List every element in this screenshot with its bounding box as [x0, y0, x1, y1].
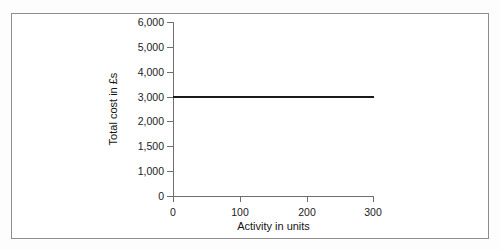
y-tick-label-6000-wrap: 6,000 — [104, 22, 164, 23]
y-tick-label-5000-wrap: 5,000 — [104, 47, 164, 48]
y-tick-label-6000: 6,000 — [104, 17, 164, 28]
x-tick-label-100-wrap: 100 — [210, 202, 270, 220]
y-tick-1500 — [167, 146, 173, 147]
plot-area: 6,000 5,000 4,000 3,000 2,000 1,500 1,00… — [0, 0, 500, 250]
x-tick-label-200-wrap: 200 — [277, 202, 337, 220]
x-tick-label-0: 0 — [170, 206, 176, 218]
series-line-total-cost — [173, 96, 374, 98]
y-tick-4000 — [167, 72, 173, 73]
x-tick-label-300: 300 — [364, 206, 382, 218]
y-tick-5000 — [167, 47, 173, 48]
x-tick-label-0-wrap: 0 — [143, 202, 203, 220]
y-tick-2000 — [167, 121, 173, 122]
y-tick-6000 — [167, 22, 173, 23]
y-tick-label-0-wrap: 0 — [104, 196, 164, 197]
y-axis-line — [173, 22, 174, 197]
figure-canvas: 6,000 5,000 4,000 3,000 2,000 1,500 1,00… — [0, 0, 500, 250]
y-axis-title: Total cost in £s — [107, 73, 119, 146]
x-tick-label-200: 200 — [298, 206, 316, 218]
y-tick-1000 — [167, 171, 173, 172]
y-tick-label-1000-wrap: 1,000 — [104, 171, 164, 172]
y-tick-label-5000: 5,000 — [104, 42, 164, 53]
y-tick-label-0: 0 — [104, 191, 164, 202]
y-tick-label-1000: 1,000 — [104, 166, 164, 177]
x-axis-title: Activity in units — [173, 220, 374, 232]
x-axis-line — [173, 196, 374, 197]
y-tick-label-1500-wrap: 1,500 — [104, 146, 164, 147]
x-tick-label-300-wrap: 300 — [343, 202, 403, 220]
x-tick-label-100: 100 — [231, 206, 249, 218]
